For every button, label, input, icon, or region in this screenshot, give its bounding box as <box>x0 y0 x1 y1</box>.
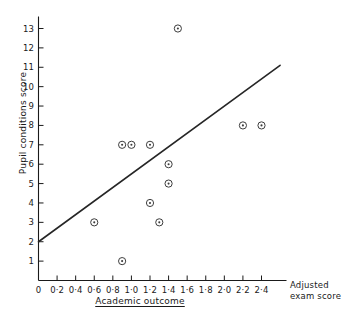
data-point-marker <box>174 25 181 32</box>
data-point-marker <box>128 141 135 148</box>
marker-center-dot <box>168 183 170 185</box>
y-tick-label: 13 <box>16 24 34 34</box>
x-tick-label: 1·6 <box>180 285 194 295</box>
x-tick-label: 2·4 <box>255 285 269 295</box>
marker-center-dot <box>121 260 123 262</box>
scatter-plot-figure: 00·20·40·60·81·01·21·41·61·82·02·22·4 12… <box>0 0 346 319</box>
fit-line <box>39 65 281 241</box>
data-point-marker <box>146 141 153 148</box>
marker-center-dot <box>242 124 244 126</box>
data-point-marker <box>156 219 163 226</box>
x-tick-label: 1·4 <box>162 285 176 295</box>
marker-center-dot <box>177 27 179 29</box>
data-point-marker <box>239 122 246 129</box>
data-point-marker <box>258 122 265 129</box>
x-tick-label: 1·8 <box>199 285 213 295</box>
x-tick-label: 0·4 <box>69 285 83 295</box>
data-point-marker <box>165 180 172 187</box>
x-axis-title: Academic outcome <box>60 296 220 306</box>
data-point-marker <box>165 161 172 168</box>
axes <box>39 17 287 281</box>
data-point-marker <box>119 258 126 265</box>
x-tick-label: 2·2 <box>236 285 250 295</box>
marker-center-dot <box>260 124 262 126</box>
data-point-marker <box>146 199 153 206</box>
marker-center-dot <box>130 144 132 146</box>
y-tick-label: 3 <box>16 217 34 227</box>
marker-center-dot <box>149 202 151 204</box>
x-axis-end-label-line2: exam score <box>290 291 341 301</box>
marker-center-dot <box>149 144 151 146</box>
y-tick-label: 1 <box>16 256 34 266</box>
y-tick-label: 2 <box>16 237 34 247</box>
regression-line <box>39 65 281 241</box>
x-tick-label: 0·2 <box>50 285 64 295</box>
y-axis-title: Pupil conditions score <box>18 38 28 208</box>
x-tick-label: 1·0 <box>124 285 138 295</box>
x-tick-label: 2·0 <box>217 285 231 295</box>
plot-canvas <box>0 0 346 319</box>
x-axis-end-label-line1: Adjusted <box>290 280 329 290</box>
x-tick-label: 0·8 <box>106 285 120 295</box>
marker-center-dot <box>158 221 160 223</box>
data-point-marker <box>119 141 126 148</box>
marker-center-dot <box>93 221 95 223</box>
x-axis-end-label: Adjustedexam score <box>290 280 341 302</box>
data-points <box>91 25 265 265</box>
x-tick-label: 0·6 <box>87 285 101 295</box>
marker-center-dot <box>168 163 170 165</box>
marker-center-dot <box>121 144 123 146</box>
x-tick-label: 1·2 <box>143 285 157 295</box>
data-point-marker <box>91 219 98 226</box>
x-tick-label: 0 <box>36 285 42 295</box>
